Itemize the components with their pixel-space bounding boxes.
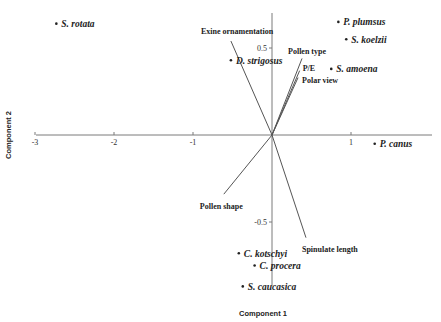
loading-vector	[272, 78, 298, 135]
data-point	[373, 142, 376, 145]
data-point	[55, 22, 58, 25]
data-point	[330, 68, 333, 71]
point-label: C. kotschyi	[244, 249, 288, 259]
x-tick-label: -3	[32, 138, 39, 147]
point-label: S. amoena	[336, 64, 377, 74]
y-axis-title: Component 2	[4, 111, 13, 159]
x-tick-label: 1	[349, 138, 353, 147]
vector-label: Exine ornamentation	[201, 27, 274, 36]
point-label: P. plumsus	[343, 17, 385, 27]
loading-vector	[224, 135, 272, 194]
point-label: S. caucasica	[248, 282, 297, 292]
point-label: S. koelzii	[351, 35, 387, 45]
score-points: S. rotataP. plumsusS. koelziiD. strigosu…	[55, 17, 413, 291]
y-tick-label: -0.5	[254, 218, 267, 227]
x-tick-label: -1	[190, 138, 197, 147]
vector-label: P/E	[303, 64, 315, 73]
axes	[36, 13, 432, 286]
data-point	[230, 59, 233, 62]
point-label: P. canus	[380, 139, 413, 149]
point-label: D. strigosus	[235, 56, 283, 66]
data-point	[241, 285, 244, 288]
x-tick-label: -2	[111, 138, 118, 147]
vector-label: Polar view	[302, 76, 338, 85]
y-tick-label: 0.5	[257, 44, 267, 53]
data-point	[238, 252, 241, 255]
vector-label: Pollen shape	[200, 202, 243, 211]
point-label: S. rotata	[61, 19, 95, 29]
point-label: C. procera	[260, 261, 301, 271]
data-point	[253, 264, 256, 267]
x-axis-title: Component 1	[239, 309, 287, 318]
data-point	[337, 21, 340, 24]
data-point	[345, 38, 348, 41]
vector-label: Spinulate length	[302, 245, 358, 254]
vector-label: Pollen type	[288, 47, 326, 56]
loading-vector	[272, 135, 306, 238]
biplot-chart: -3-2-110.5-0.5 Exine ornamentationPollen…	[0, 0, 441, 322]
